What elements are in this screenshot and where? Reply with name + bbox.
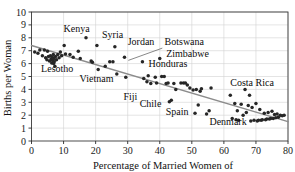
x-tick-label: 30 [123,145,133,156]
data-point [282,113,286,117]
data-point [172,82,176,86]
data-point [249,119,253,123]
y-tick-label: 8 [21,32,26,43]
data-point [248,93,252,97]
data-point [195,88,199,92]
country-label-jordan: Jordan [128,36,155,47]
data-point [33,50,37,54]
data-point [38,48,42,52]
x-axis-title: Percentage of Married Women of [93,160,234,171]
y-tick-label: 3 [21,97,26,108]
x-tick-label: 10 [59,145,69,156]
data-point [196,103,200,107]
data-point [46,50,50,54]
data-point [205,112,209,116]
data-point [186,83,190,87]
country-label-vietnam: Vietnam [80,73,114,84]
data-point [207,109,211,113]
data-point [123,55,127,59]
data-point [261,118,265,122]
data-point [141,60,145,64]
data-point [142,77,146,81]
data-point [149,82,153,86]
x-tick-label: 50 [187,145,197,156]
country-label-fiji: Fiji [123,91,137,102]
data-point [84,36,88,40]
scatter-chart-figure: 01020304050607080 012345678910 KenyaSyri… [0,0,295,172]
country-label-denmark: Denmark [209,116,246,127]
data-point [41,54,45,58]
data-point [250,106,254,110]
data-point [236,109,240,113]
data-point [64,52,68,56]
y-tick-label: 5 [21,71,26,82]
data-point [200,87,204,91]
data-point [191,88,195,92]
data-point [270,110,274,114]
data-point [239,102,243,106]
data-point [62,44,66,48]
country-label-kenya: Kenya [64,23,91,34]
data-point [78,57,82,61]
x-tick-label: 20 [91,145,101,156]
data-point [154,75,158,79]
data-point [166,81,170,85]
data-point [162,75,166,79]
data-point [71,55,75,59]
data-point [275,112,279,116]
data-point [36,52,40,56]
data-point [60,54,64,58]
country-label-lesotho: Lesotho [41,63,73,74]
data-point [266,111,270,115]
data-point [229,93,233,97]
data-point [103,64,107,68]
country-label-syria: Syria [102,29,124,40]
data-point [113,45,117,49]
data-point [91,61,95,64]
y-tick-label: 1 [21,123,26,134]
data-point [263,112,267,116]
x-tick-label: 60 [219,145,229,156]
data-point [108,60,112,64]
country-label-costa-rica: Costa Rica [230,77,274,88]
x-tick-label: 40 [155,145,165,156]
data-point [209,86,213,90]
country-label-honduras: Honduras [149,58,188,69]
x-tick-label: 70 [251,145,261,156]
data-point [258,108,262,112]
data-point [95,44,99,48]
x-tick-label: 0 [29,145,34,156]
data-point [56,53,60,57]
data-point [245,111,249,115]
data-point [124,75,128,79]
y-tick-label: 10 [16,7,26,18]
data-point [43,48,47,52]
y-tick-label: 9 [21,19,26,30]
y-tick-label: 0 [21,136,26,147]
y-tick-label: 4 [21,84,26,95]
data-point [96,68,100,72]
y-tick-label: 6 [21,58,26,69]
data-point [115,72,119,76]
data-point [246,104,250,108]
y-tick-label: 2 [21,110,26,121]
data-point [170,99,174,103]
data-point [111,60,115,64]
data-point [59,50,63,54]
data-point [174,88,178,92]
data-point [155,81,159,85]
data-point [254,102,258,106]
x-tick-label: 80 [283,145,293,156]
country-label-chile: Chile [140,98,162,109]
y-axis-title: Births per Woman [2,39,13,116]
data-point [252,119,256,123]
y-tick-label: 7 [21,45,26,56]
data-point [146,74,150,78]
country-label-spain: Spain [166,106,189,117]
data-point [68,53,72,57]
data-point [188,86,192,90]
data-point [233,102,237,106]
data-point [193,112,197,116]
data-point [145,80,149,84]
data-point [77,50,81,54]
